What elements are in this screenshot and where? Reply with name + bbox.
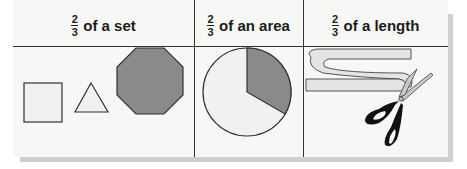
ribbon-strip [306, 49, 412, 91]
header-set: 2 3 of a set [13, 10, 194, 40]
ribbon-scissors-illustration [303, 47, 448, 157]
fraction-two-thirds: 2 3 [207, 14, 214, 37]
triangle-shape [75, 83, 108, 112]
denominator: 3 [332, 27, 338, 37]
header-label: of a length [344, 17, 420, 34]
numerator: 2 [208, 14, 214, 24]
square-shape [24, 83, 62, 122]
numerator: 2 [332, 14, 338, 24]
header-label: of a set [83, 17, 136, 34]
header-length: 2 3 of a length [303, 10, 448, 40]
area-circle-illustration [194, 47, 303, 157]
fraction-two-thirds: 2 3 [332, 14, 339, 37]
set-shapes-illustration [13, 47, 194, 157]
octagon-shape [117, 48, 183, 114]
header-label: of an area [219, 17, 290, 34]
numerator: 2 [72, 14, 78, 24]
denominator: 3 [72, 27, 78, 37]
denominator: 3 [208, 27, 214, 37]
header-area: 2 3 of an area [194, 10, 303, 40]
fraction-models-table: 2 3 of a set 2 3 of an area 2 3 of a len… [13, 0, 448, 157]
fraction-two-thirds: 2 3 [71, 14, 78, 37]
